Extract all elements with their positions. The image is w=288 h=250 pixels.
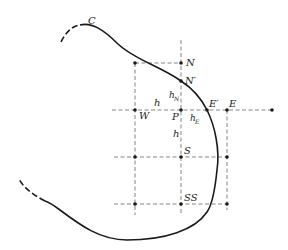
- label-w: W: [139, 110, 150, 121]
- label-c: C: [88, 15, 96, 26]
- grid-points: [133, 61, 274, 206]
- point-sse: [225, 202, 229, 206]
- point-ss: [179, 202, 183, 206]
- curve-dashed-top: [61, 25, 80, 42]
- point-s: [179, 155, 183, 159]
- label-ss: SS: [184, 192, 198, 203]
- point-n-prime: [179, 79, 183, 83]
- label-h-horizontal: h: [154, 97, 160, 108]
- point-w: [133, 108, 137, 112]
- label-s: S: [184, 145, 191, 156]
- curve-dashed-bottom: [19, 179, 45, 201]
- label-h-e-subscript: E: [194, 118, 200, 125]
- label-e: E: [228, 98, 237, 109]
- point-sw: [133, 155, 137, 159]
- label-e-prime: E′: [208, 98, 219, 109]
- label-p: P: [171, 111, 179, 122]
- point-p: [179, 108, 183, 112]
- label-n-prime: N′: [184, 75, 197, 86]
- label-h-n-subscript: N: [173, 95, 180, 102]
- point-ssw: [133, 202, 137, 206]
- point-nw: [133, 61, 137, 65]
- point-se: [225, 155, 229, 159]
- label-h-vertical: h: [173, 128, 179, 139]
- labels: C N N′ W P E′ E S SS h h h N h E: [88, 15, 237, 203]
- label-n: N: [185, 57, 196, 68]
- point-n: [179, 61, 183, 65]
- point-ee: [270, 108, 274, 112]
- diagram-canvas: C N N′ W P E′ E S SS h h h N h E: [0, 0, 288, 250]
